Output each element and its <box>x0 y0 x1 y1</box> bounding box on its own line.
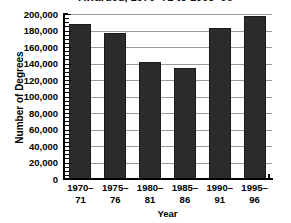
gridline <box>63 64 272 65</box>
bar <box>174 68 196 179</box>
y-tick-label: 140,000 <box>8 59 58 68</box>
bar <box>139 62 161 179</box>
y-tick-label: 200,000 <box>8 10 58 19</box>
gridline <box>63 47 272 48</box>
y-tick-minor <box>65 150 69 151</box>
y-tick-minor <box>65 134 69 135</box>
y-tick-minor <box>65 105 69 106</box>
y-tick-label: 100,000 <box>8 92 58 101</box>
y-tick-major <box>65 179 71 180</box>
y-tick-minor <box>65 43 69 44</box>
y-axis-tick-labels: 200,000180,000160,000140,000120,000100,0… <box>8 14 58 179</box>
y-tick-label: 40,000 <box>8 142 58 151</box>
x-tick-label-line1: 1980– <box>137 182 163 193</box>
y-tick-major <box>65 80 71 81</box>
y-tick-minor <box>65 109 69 110</box>
x-tick-label-line1: 1995– <box>241 182 267 193</box>
y-tick-minor <box>65 175 69 176</box>
x-tick-label-line1: 1970– <box>67 182 93 193</box>
y-tick-minor <box>65 59 69 60</box>
plot-area <box>63 14 272 179</box>
y-tick-minor <box>65 158 69 159</box>
x-tick-label: 1995–96 <box>233 182 277 206</box>
x-tick-label-line1: 1975– <box>102 182 128 193</box>
y-tick-minor <box>65 72 69 73</box>
y-tick-minor <box>65 35 69 36</box>
x-tick-label-line1: 1990– <box>207 182 233 193</box>
x-axis-tick-labels: 1970–711975–761980–811985–861990–911995–… <box>63 182 272 210</box>
y-tick-label: 0 <box>8 175 58 184</box>
y-tick-minor <box>65 154 69 155</box>
y-tick-label: 120,000 <box>8 76 58 85</box>
gridline <box>63 113 272 114</box>
y-tick-minor <box>65 171 69 172</box>
y-tick-major <box>65 163 71 164</box>
x-axis-right-cap <box>268 174 270 180</box>
bar-chart: Awarded, 1970–71 to 1995–96 Number of De… <box>0 0 291 223</box>
y-tick-minor <box>65 68 69 69</box>
y-tick-minor <box>65 92 69 93</box>
y-tick-minor <box>65 55 69 56</box>
bar <box>104 33 126 179</box>
gridline <box>63 146 272 147</box>
chart-title: Awarded, 1970–71 to 1995–96 <box>48 0 263 3</box>
y-tick-minor <box>65 18 69 19</box>
y-tick-major <box>65 14 71 15</box>
bar <box>244 16 266 179</box>
x-axis-line <box>63 178 273 180</box>
y-tick-minor <box>65 125 69 126</box>
y-tick-minor <box>65 76 69 77</box>
y-tick-minor <box>65 22 69 23</box>
y-tick-major <box>65 64 71 65</box>
y-tick-minor <box>65 167 69 168</box>
y-tick-minor <box>65 138 69 139</box>
y-tick-major <box>65 113 71 114</box>
y-tick-minor <box>65 142 69 143</box>
y-tick-label: 60,000 <box>8 125 58 134</box>
y-tick-major <box>65 47 71 48</box>
x-tick-label-line2: 96 <box>233 194 277 206</box>
y-tick-label: 20,000 <box>8 158 58 167</box>
y-tick-minor <box>65 121 69 122</box>
y-tick-minor <box>65 39 69 40</box>
y-tick-minor <box>65 51 69 52</box>
y-tick-label: 80,000 <box>8 109 58 118</box>
gridline <box>63 14 272 15</box>
y-tick-major <box>65 130 71 131</box>
x-tick-label-line1: 1985– <box>172 182 198 193</box>
gridline <box>63 31 272 32</box>
bar <box>69 24 91 179</box>
y-tick-minor <box>65 101 69 102</box>
y-tick-minor <box>65 84 69 85</box>
y-tick-label: 180,000 <box>8 26 58 35</box>
gridline <box>63 97 272 98</box>
y-tick-major <box>65 31 71 32</box>
y-tick-major <box>65 97 71 98</box>
gridline <box>63 80 272 81</box>
y-tick-minor <box>65 26 69 27</box>
gridline <box>63 163 272 164</box>
y-tick-label: 160,000 <box>8 43 58 52</box>
y-tick-major <box>65 146 71 147</box>
y-tick-minor <box>65 88 69 89</box>
x-axis-title: Year <box>63 208 272 219</box>
gridline <box>63 130 272 131</box>
y-tick-minor <box>65 117 69 118</box>
bar <box>209 28 231 179</box>
